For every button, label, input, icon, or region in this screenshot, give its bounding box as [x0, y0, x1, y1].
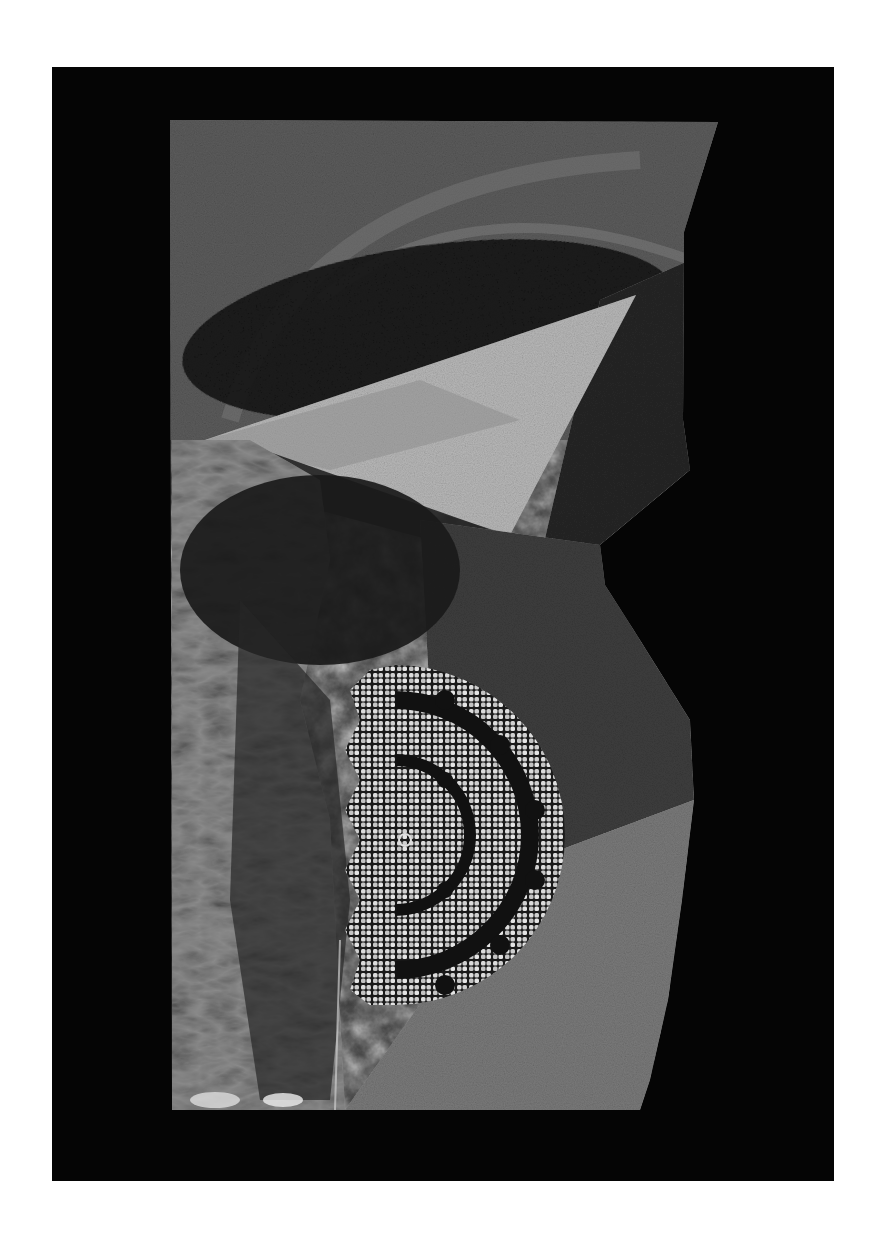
page-background — [0, 0, 878, 1251]
dark-shadow-mass — [180, 475, 460, 665]
framed-artwork — [0, 0, 878, 1251]
